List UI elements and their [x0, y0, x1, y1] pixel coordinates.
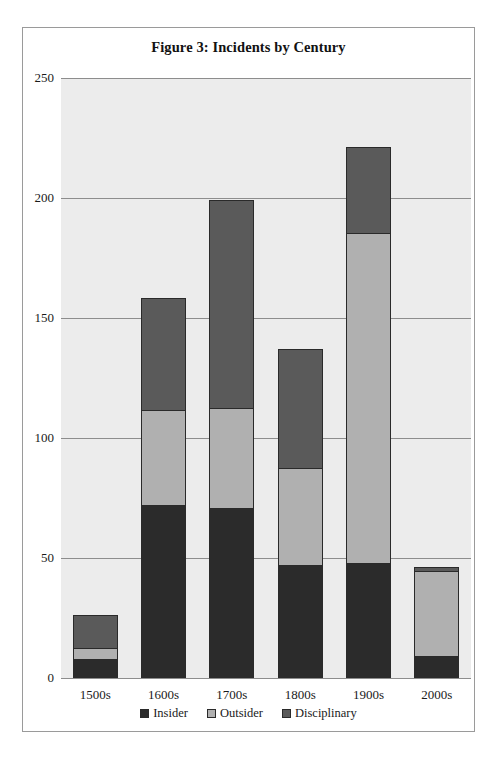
bar-segment-outsider[interactable]: [278, 468, 323, 566]
legend-item-insider[interactable]: Insider: [140, 706, 188, 721]
bar-segment-disciplinary[interactable]: [346, 147, 391, 233]
bar-segment-insider[interactable]: [346, 563, 391, 678]
legend-item-label: Disciplinary: [295, 706, 357, 721]
x-axis-tick-label: 1600s: [148, 687, 179, 703]
legend-item-label: Insider: [153, 706, 188, 721]
legend-item-disciplinary[interactable]: Disciplinary: [282, 706, 357, 721]
page-title: Figure 3: Incidents by Century: [23, 39, 474, 56]
figure-frame: Figure 3: Incidents by Century 050100150…: [22, 27, 475, 732]
bar-segment-disciplinary[interactable]: [73, 615, 118, 649]
bar-group[interactable]: 2000s: [403, 78, 471, 678]
legend-item-outsider[interactable]: Outsider: [207, 706, 263, 721]
bar-group[interactable]: 1500s: [61, 78, 129, 678]
bar-group[interactable]: 1900s: [334, 78, 402, 678]
x-axis-tick-label: 1500s: [80, 687, 111, 703]
stacked-bar[interactable]: [346, 147, 391, 678]
y-axis-tick-label: 50: [41, 550, 54, 566]
bar-segment-outsider[interactable]: [346, 233, 391, 564]
legend-swatch-icon: [207, 709, 216, 718]
legend-swatch-icon: [140, 709, 149, 718]
x-axis-tick-label: 1700s: [216, 687, 247, 703]
legend-item-label: Outsider: [220, 706, 263, 721]
x-axis-tick-label: 2000s: [421, 687, 452, 703]
plot-area: 050100150200250 1500s1600s1700s1800s1900…: [61, 78, 471, 678]
bar-segment-insider[interactable]: [209, 508, 254, 678]
y-axis-tick-label: 150: [35, 310, 55, 326]
bar-segment-insider[interactable]: [73, 659, 118, 678]
stacked-bar[interactable]: [414, 567, 459, 678]
legend-swatch-icon: [282, 709, 291, 718]
bar-segment-disciplinary[interactable]: [209, 200, 254, 409]
stacked-bar[interactable]: [141, 298, 186, 678]
x-axis-tick-label: 1900s: [353, 687, 384, 703]
y-axis-tick-label: 200: [35, 190, 55, 206]
x-axis-tick-label: 1800s: [285, 687, 316, 703]
stacked-bar[interactable]: [278, 349, 323, 678]
y-axis-tick-label: 250: [35, 70, 55, 86]
stacked-bar[interactable]: [209, 200, 254, 678]
y-axis-tick-label: 100: [35, 430, 55, 446]
chart-legend: InsiderOutsiderDisciplinary: [23, 706, 474, 721]
bar-series-container: 1500s1600s1700s1800s1900s2000s: [61, 78, 471, 678]
bar-segment-disciplinary[interactable]: [278, 349, 323, 469]
bar-segment-disciplinary[interactable]: [141, 298, 186, 411]
bar-segment-insider[interactable]: [414, 656, 459, 678]
bar-group[interactable]: 1600s: [129, 78, 197, 678]
bar-group[interactable]: 1700s: [198, 78, 266, 678]
stacked-bar[interactable]: [73, 615, 118, 678]
y-axis-tick-label: 0: [48, 670, 55, 686]
bar-segment-outsider[interactable]: [141, 410, 186, 506]
bar-segment-outsider[interactable]: [414, 571, 459, 657]
bar-group[interactable]: 1800s: [266, 78, 334, 678]
bar-segment-insider[interactable]: [278, 565, 323, 678]
bar-segment-outsider[interactable]: [209, 408, 254, 509]
x-axis-line: [61, 678, 471, 679]
bar-segment-insider[interactable]: [141, 505, 186, 678]
